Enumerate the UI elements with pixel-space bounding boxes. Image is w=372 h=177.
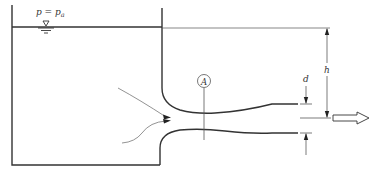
pressure-label: p = pa <box>36 7 65 19</box>
tank-right-wall-upper <box>162 8 298 113</box>
tank-left-wall <box>12 5 160 165</box>
flow-arrowheads <box>163 115 171 124</box>
outflow-arrow-icon <box>333 112 369 124</box>
arrowhead-icon <box>304 97 308 104</box>
arrowhead-icon <box>163 119 171 124</box>
arrowhead-icon <box>325 28 329 35</box>
tank <box>12 5 298 165</box>
diameter-label: d <box>303 74 309 84</box>
tank-nozzle-diagram: p = pa A d h <box>0 0 372 177</box>
section-a-label: A <box>200 77 207 87</box>
arrowhead-icon <box>163 115 171 120</box>
streamlines <box>118 88 166 143</box>
streamline-upper <box>118 88 166 117</box>
tank-right-wall-lower <box>160 129 298 165</box>
diameter-dimension <box>300 86 312 155</box>
streamline-lower <box>122 121 166 143</box>
head-label: h <box>324 65 330 75</box>
arrowhead-icon <box>304 133 308 140</box>
arrowhead-icon <box>325 111 329 118</box>
